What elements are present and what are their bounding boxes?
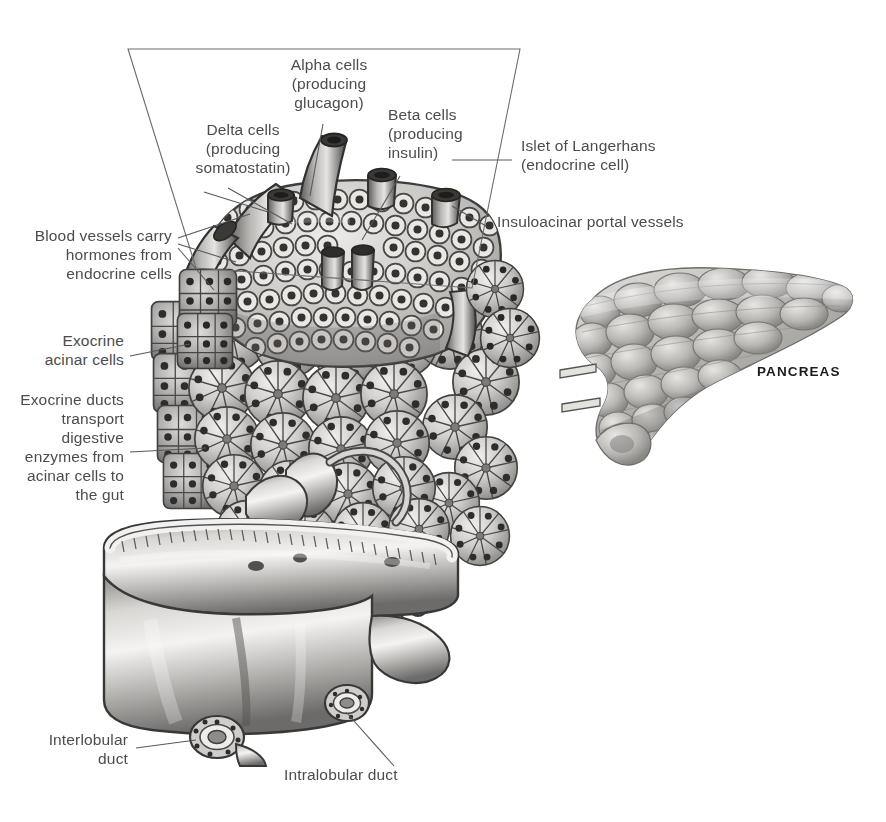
- label-alpha-cells: Alpha cells (producing glucagon): [264, 55, 394, 112]
- leader-lines: [130, 124, 512, 766]
- duct-system: [104, 451, 458, 766]
- label-delta-cells: Delta cells (producing somatostatin): [170, 120, 316, 177]
- label-exocrine-ducts: Exocrine ducts transport digestive enzym…: [0, 390, 124, 504]
- insuloacinar-portal-vessels: [322, 245, 374, 290]
- islet-of-langerhans: [205, 180, 500, 372]
- label-intralobular-duct: Intralobular duct: [284, 765, 504, 784]
- interlobular-duct-opening: [190, 716, 266, 766]
- label-islet-of-langerhans: Islet of Langerhans (endocrine cell): [521, 136, 711, 174]
- lower-acinar-lobules: [283, 556, 433, 670]
- label-insuloacinar-portal-vessels: Insuloacinar portal vessels: [497, 212, 727, 231]
- label-interlobular-duct: Interlobular duct: [0, 730, 128, 768]
- figure-canvas: Alpha cells (producing glucagon) Delta c…: [0, 0, 886, 822]
- label-exocrine-acinar-cells: Exocrine acinar cells: [0, 331, 124, 369]
- label-beta-cells: Beta cells (producing insulin): [388, 105, 506, 162]
- upper-acinar-shelf: [177, 260, 539, 368]
- label-pancreas: PANCREAS: [757, 364, 841, 379]
- label-blood-vessels: Blood vessels carry hormones from endocr…: [0, 226, 172, 283]
- intralobular-duct-opening: [325, 685, 369, 721]
